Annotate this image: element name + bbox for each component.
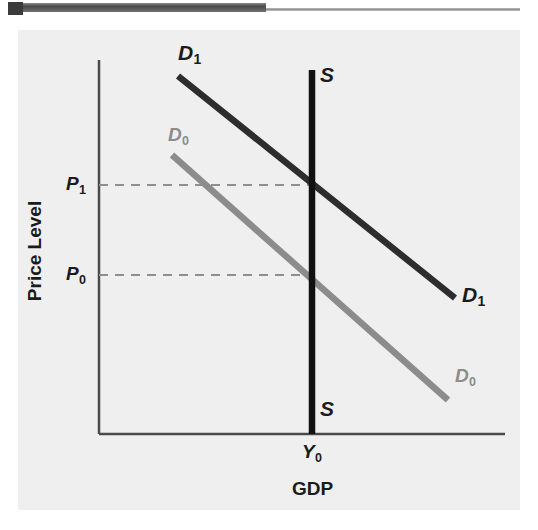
curve-label-d0-top: D0: [168, 125, 189, 144]
curve-label-s-bottom: S: [320, 398, 334, 419]
y-axis-value-p0: P0: [66, 264, 86, 283]
x-axis-value-y0: Y0: [302, 442, 322, 461]
curve-label-d1-top: D1: [178, 42, 201, 63]
curve-label-d0-right: D0: [455, 366, 476, 385]
y-axis-value-p1: P1: [66, 174, 86, 193]
curve-label-d1-right: D1: [462, 284, 485, 305]
demand-curve-d1: [178, 76, 455, 298]
curve-label-s-top: S: [320, 64, 334, 85]
y-axis-title: Price Level: [24, 181, 46, 321]
x-axis-title: GDP: [292, 478, 333, 500]
